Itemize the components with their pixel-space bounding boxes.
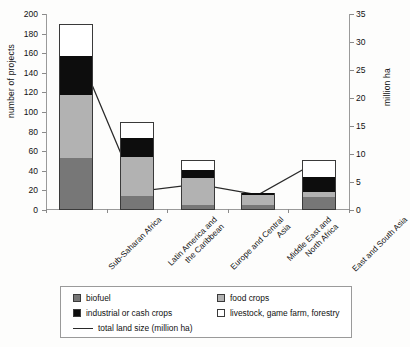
y-axis-right-line bbox=[349, 14, 350, 210]
y-axis-left-tick-label: 140 bbox=[12, 68, 38, 78]
x-axis-category-label: Latin America and the Caribbean bbox=[166, 215, 226, 275]
x-axis-tick-mark bbox=[349, 209, 350, 213]
legend-item[interactable]: total land size (million ha) bbox=[73, 323, 193, 333]
bar-segment[interactable] bbox=[59, 56, 93, 95]
bar-segment[interactable] bbox=[181, 178, 215, 205]
legend-item[interactable]: industrial or cash crops bbox=[73, 308, 172, 318]
y-axis-left-tick-label: 0 bbox=[12, 205, 38, 215]
bar-segment[interactable] bbox=[181, 170, 215, 178]
legend-label: biofuel bbox=[86, 293, 111, 303]
stacked-bar[interactable] bbox=[59, 24, 93, 210]
x-axis-tick-mark bbox=[167, 209, 168, 213]
y-axis-right-tick-label: 10 bbox=[356, 149, 382, 159]
y-axis-left-tick-label: 100 bbox=[12, 107, 38, 117]
chart-legend: biofuelfood cropsindustrial or cash crop… bbox=[60, 286, 352, 338]
bar-segment[interactable] bbox=[120, 157, 154, 196]
x-axis-category-label: Europe and Central Asia bbox=[228, 215, 292, 279]
y-axis-right-tick-mark bbox=[350, 154, 354, 155]
bar-segment[interactable] bbox=[120, 138, 154, 157]
y-axis-right-tick-mark bbox=[350, 70, 354, 71]
x-axis-tick-mark bbox=[107, 209, 108, 213]
y-axis-right-title: million ha bbox=[382, 52, 392, 122]
y-axis-right-tick-label: 15 bbox=[356, 121, 382, 131]
legend-label: food crops bbox=[230, 293, 269, 303]
legend-label: livestock, game farm, forestry bbox=[230, 308, 339, 318]
bar-segment[interactable] bbox=[241, 205, 275, 210]
legend-color-swatch bbox=[73, 309, 81, 317]
stacked-bar[interactable] bbox=[302, 160, 336, 210]
x-axis-tick-mark bbox=[228, 209, 229, 213]
legend-item[interactable]: livestock, game farm, forestry bbox=[217, 308, 339, 318]
x-axis-tick-mark bbox=[46, 209, 47, 213]
x-axis-category-label: Sub-Saharan Africa bbox=[107, 215, 164, 272]
y-axis-right-tick-mark bbox=[350, 210, 354, 211]
bar-segment[interactable] bbox=[59, 24, 93, 56]
y-axis-left-tick-label: 60 bbox=[12, 146, 38, 156]
x-axis-category-label: Middle East and North Africa bbox=[285, 215, 341, 271]
stacked-bar[interactable] bbox=[241, 193, 275, 210]
stacked-bar[interactable] bbox=[120, 122, 154, 210]
legend-item[interactable]: biofuel bbox=[73, 293, 111, 303]
x-axis-category-label: East and South Asia bbox=[350, 215, 409, 274]
y-axis-left-tick-label: 40 bbox=[12, 166, 38, 176]
y-axis-right-tick-mark bbox=[350, 42, 354, 43]
y-axis-left-tick-label: 200 bbox=[12, 9, 38, 19]
bar-segment[interactable] bbox=[302, 177, 336, 193]
bar-segment[interactable] bbox=[181, 205, 215, 210]
y-axis-right-tick-mark bbox=[350, 98, 354, 99]
x-axis-tick-mark bbox=[288, 209, 289, 213]
y-axis-right-tick-mark bbox=[350, 126, 354, 127]
bar-segment[interactable] bbox=[59, 158, 93, 210]
legend-item[interactable]: food crops bbox=[217, 293, 269, 303]
y-axis-right-tick-label: 30 bbox=[356, 37, 382, 47]
legend-line-swatch bbox=[73, 328, 93, 329]
y-axis-right-tick-label: 20 bbox=[356, 93, 382, 103]
bar-segment[interactable] bbox=[120, 122, 154, 139]
y-axis-left-tick-label: 180 bbox=[12, 29, 38, 39]
legend-color-swatch bbox=[217, 294, 225, 302]
legend-color-swatch bbox=[73, 294, 81, 302]
y-axis-right-tick-label: 0 bbox=[356, 205, 382, 215]
bar-segment[interactable] bbox=[59, 95, 93, 158]
bar-segment[interactable] bbox=[241, 195, 275, 205]
legend-label: total land size (million ha) bbox=[98, 323, 193, 333]
stacked-bar[interactable] bbox=[181, 160, 215, 210]
bar-segment[interactable] bbox=[302, 160, 336, 177]
legend-color-swatch bbox=[217, 309, 225, 317]
bar-segment[interactable] bbox=[120, 196, 154, 210]
y-axis-right-tick-mark bbox=[350, 182, 354, 183]
y-axis-left-tick-label: 160 bbox=[12, 48, 38, 58]
bar-segment[interactable] bbox=[302, 197, 336, 210]
y-axis-left-tick-label: 120 bbox=[12, 87, 38, 97]
y-axis-right-tick-label: 5 bbox=[356, 177, 382, 187]
legend-label: industrial or cash crops bbox=[86, 308, 172, 318]
plot-area bbox=[46, 14, 349, 210]
y-axis-left-tick-label: 20 bbox=[12, 185, 38, 195]
y-axis-left-tick-label: 80 bbox=[12, 127, 38, 137]
bar-segment[interactable] bbox=[181, 160, 215, 170]
y-axis-right-tick-mark bbox=[350, 14, 354, 15]
y-axis-right-tick-label: 35 bbox=[356, 9, 382, 19]
y-axis-right-tick-label: 25 bbox=[356, 65, 382, 75]
